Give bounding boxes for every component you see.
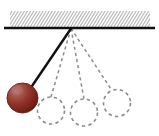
pivot-point-icon (69, 27, 72, 30)
figure-background (0, 0, 159, 136)
pendulum-figure (0, 0, 159, 136)
pendulum-bob (7, 83, 38, 113)
pendulum-diagram-svg (0, 0, 159, 136)
bob-specular-highlight (11, 85, 23, 95)
